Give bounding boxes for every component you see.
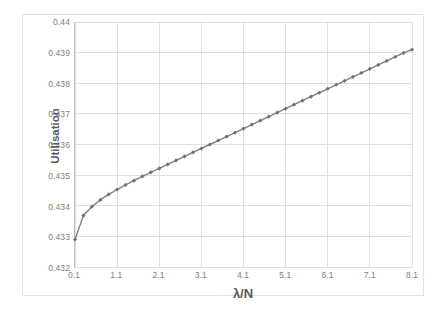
x-tick-label: 0.1: [68, 270, 80, 280]
x-tick-label: 4.1: [237, 270, 249, 280]
x-tick-label: 5.1: [279, 270, 291, 280]
x-tick-label: 2.1: [152, 270, 164, 280]
chart-figure: 0.4320.4330.4340.4350.4360.4370.4380.439…: [0, 0, 444, 326]
x-tick-label: 1.1: [110, 270, 122, 280]
x-tick-label: 8.1: [406, 270, 418, 280]
y-axis-title-container: Utilisation: [38, 22, 52, 268]
x-axis-tick-labels: 0.11.12.13.14.15.16.17.18.1: [74, 270, 412, 286]
y-tick-label: 0.44: [53, 17, 70, 27]
x-axis-title: λ/N: [74, 286, 412, 301]
x-tick-label: 3.1: [195, 270, 207, 280]
data-series-layer: [75, 22, 412, 267]
y-axis-title: Utilisation: [49, 61, 61, 211]
x-tick-label: 7.1: [364, 270, 376, 280]
plot-area: [74, 22, 412, 268]
x-tick-label: 6.1: [321, 270, 333, 280]
